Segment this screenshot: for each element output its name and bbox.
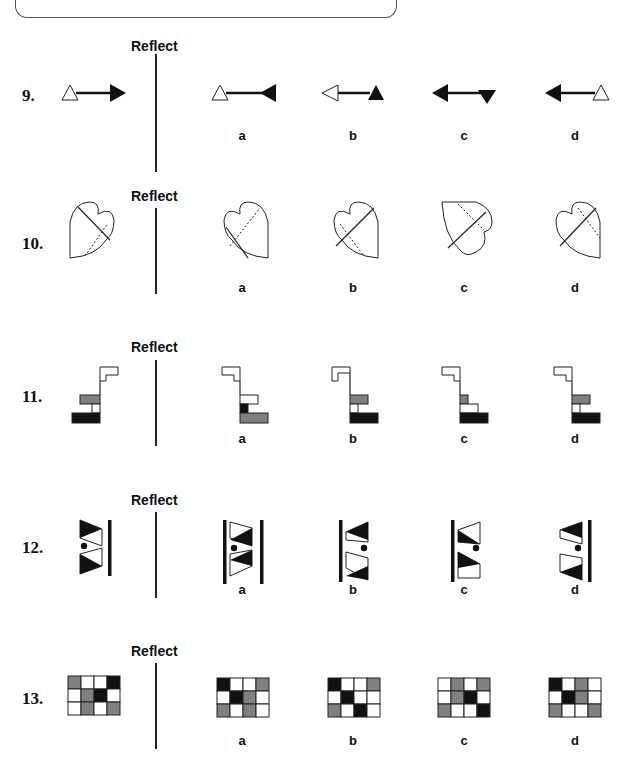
reflect-label: Reflect bbox=[131, 38, 178, 54]
heart-option-b[interactable] bbox=[330, 200, 380, 260]
grid-option-a[interactable] bbox=[216, 677, 270, 719]
option-label-c: c bbox=[454, 280, 474, 295]
mirror-line bbox=[155, 663, 157, 749]
heart-option-c[interactable] bbox=[440, 200, 495, 260]
option-label-b: b bbox=[343, 431, 363, 446]
option-label-d: d bbox=[565, 582, 585, 597]
option-label-a: a bbox=[232, 733, 252, 748]
option-label-c: c bbox=[454, 733, 474, 748]
option-label-d: d bbox=[565, 733, 585, 748]
stairs-option-d[interactable] bbox=[552, 365, 604, 427]
question-number: 11. bbox=[22, 387, 42, 407]
mirror-line bbox=[155, 360, 157, 446]
option-label-c: c bbox=[454, 128, 474, 143]
stairs-option-a[interactable] bbox=[220, 365, 272, 427]
option-label-b: b bbox=[343, 733, 363, 748]
reflect-label: Reflect bbox=[131, 643, 178, 659]
question-number: 10. bbox=[22, 234, 43, 254]
instruction-box bbox=[15, 0, 397, 18]
grid-option-b[interactable] bbox=[327, 677, 381, 719]
reflect-label: Reflect bbox=[131, 188, 178, 204]
question-number: 13. bbox=[22, 689, 43, 709]
option-label-d: d bbox=[565, 431, 585, 446]
question-13: Reflect 13. a b c d bbox=[0, 635, 629, 760]
option-label-a: a bbox=[232, 431, 252, 446]
grid-option-c[interactable] bbox=[437, 677, 491, 719]
heart-prompt-figure bbox=[68, 200, 118, 260]
option-label-b: b bbox=[343, 128, 363, 143]
option-label-b: b bbox=[343, 582, 363, 597]
grid-option-d[interactable] bbox=[548, 677, 602, 719]
reflect-label: Reflect bbox=[131, 492, 178, 508]
stairs-prompt-figure bbox=[70, 365, 122, 427]
mirror-line bbox=[155, 208, 157, 294]
heart-option-a[interactable] bbox=[220, 200, 270, 260]
reflect-label: Reflect bbox=[131, 339, 178, 355]
option-label-a: a bbox=[232, 128, 252, 143]
option-label-a: a bbox=[232, 280, 252, 295]
bowtie-option-b[interactable] bbox=[338, 518, 378, 588]
option-label-d: d bbox=[565, 128, 585, 143]
question-10: Reflect 10. a b c d bbox=[0, 182, 629, 322]
bowtie-option-c[interactable] bbox=[450, 518, 490, 588]
stairs-option-c[interactable] bbox=[440, 365, 492, 427]
question-number: 12. bbox=[22, 538, 43, 558]
question-11: Reflect 11. a b c d bbox=[0, 333, 629, 473]
mirror-line bbox=[155, 512, 157, 598]
mirror-line bbox=[155, 54, 157, 172]
arrow-option-b[interactable] bbox=[320, 80, 390, 110]
question-number: 9. bbox=[22, 86, 35, 106]
arrow-prompt-figure bbox=[60, 80, 130, 110]
bowtie-option-a[interactable] bbox=[222, 518, 267, 588]
grid-prompt-figure bbox=[67, 675, 121, 717]
arrow-option-a[interactable] bbox=[210, 80, 280, 110]
bowtie-prompt-figure bbox=[78, 518, 118, 580]
question-12: Reflect 12. bbox=[0, 484, 629, 624]
arrow-option-c[interactable] bbox=[430, 80, 500, 110]
option-label-c: c bbox=[454, 582, 474, 597]
bowtie-option-d[interactable] bbox=[558, 518, 598, 588]
option-label-c: c bbox=[454, 431, 474, 446]
stairs-option-b[interactable] bbox=[330, 365, 382, 427]
option-label-a: a bbox=[232, 582, 252, 597]
heart-option-d[interactable] bbox=[552, 200, 602, 260]
arrow-option-d[interactable] bbox=[543, 80, 613, 110]
option-label-d: d bbox=[565, 280, 585, 295]
question-9: Reflect 9. a b c d bbox=[0, 30, 629, 170]
option-label-b: b bbox=[343, 280, 363, 295]
